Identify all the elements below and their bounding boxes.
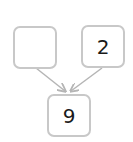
arrow-left-to-whole xyxy=(36,68,65,91)
part-box-right: 2 xyxy=(81,25,125,68)
arrow-right-to-whole xyxy=(71,68,102,91)
whole-value: 9 xyxy=(63,104,76,128)
part-box-left[interactable] xyxy=(13,26,57,69)
whole-box: 9 xyxy=(47,94,91,137)
part-right-value: 2 xyxy=(97,35,110,59)
